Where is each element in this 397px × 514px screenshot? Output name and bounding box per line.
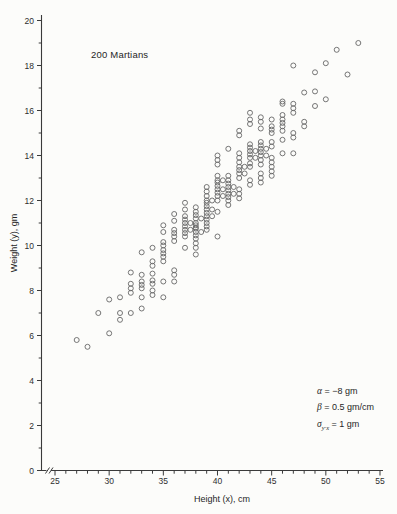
y-tick-label: 12 <box>25 196 35 206</box>
y-tick-label: 16 <box>25 106 35 116</box>
data-point <box>210 198 215 203</box>
beta-annotation: β = 0.5 gm/cm <box>317 401 374 417</box>
data-point <box>74 338 79 343</box>
data-point <box>139 306 144 311</box>
data-point <box>139 295 144 300</box>
y-tick-label: 10 <box>25 241 35 251</box>
data-point <box>172 212 177 217</box>
regression-annotations: α = −8 gm β = 0.5 gm/cm σy·x = 1 gm <box>317 385 374 434</box>
data-point <box>258 140 263 145</box>
data-point <box>139 279 144 284</box>
y-axis-title: Weight (y), gm <box>9 198 19 288</box>
data-point <box>210 207 215 212</box>
scatter-plot: 2530354045505502468101214161820 <box>0 0 397 514</box>
data-point <box>248 110 253 115</box>
data-point <box>183 245 188 250</box>
x-tick-label: 30 <box>104 476 114 486</box>
x-tick-label: 25 <box>50 476 60 486</box>
data-point <box>161 279 166 284</box>
data-point <box>150 245 155 250</box>
data-point <box>150 278 155 283</box>
data-point <box>96 311 101 316</box>
sigma-annotation: σy·x = 1 gm <box>317 418 374 434</box>
data-point <box>334 47 339 52</box>
data-point <box>264 153 269 158</box>
y-tick-label: 18 <box>25 61 35 71</box>
x-tick-label: 45 <box>267 476 277 486</box>
data-point <box>183 207 188 212</box>
data-point <box>139 250 144 255</box>
y-tick-label: 0 <box>29 466 34 476</box>
data-point <box>183 200 188 205</box>
data-point <box>313 104 318 109</box>
y-tick-label: 8 <box>29 286 34 296</box>
data-point <box>313 89 318 94</box>
data-point <box>172 218 177 223</box>
data-point <box>107 297 112 302</box>
data-point <box>118 295 123 300</box>
data-point <box>220 187 225 192</box>
data-point <box>118 311 123 316</box>
data-point <box>193 252 198 257</box>
data-point <box>161 240 166 245</box>
beta-value: = 0.5 gm/cm <box>322 402 374 412</box>
data-point <box>128 311 133 316</box>
data-point <box>269 117 274 122</box>
data-point <box>161 295 166 300</box>
data-point <box>242 171 247 176</box>
alpha-value: = −8 gm <box>322 386 358 396</box>
data-point <box>172 227 177 232</box>
y-tick-label: 6 <box>29 331 34 341</box>
data-point <box>323 97 328 102</box>
x-axis-title: Height (x), cm <box>162 494 282 504</box>
x-tick-label: 40 <box>213 476 223 486</box>
y-tick-label: 14 <box>25 151 35 161</box>
y-tick-label: 4 <box>29 376 34 386</box>
data-point <box>269 124 274 129</box>
data-point <box>85 344 90 349</box>
data-point <box>118 317 123 322</box>
data-point <box>302 90 307 95</box>
data-point <box>161 230 166 235</box>
x-tick-label: 55 <box>375 476 385 486</box>
data-point <box>231 191 236 196</box>
y-tick-label: 20 <box>25 16 35 26</box>
data-point <box>253 149 258 154</box>
data-point <box>128 270 133 275</box>
data-point <box>183 214 188 219</box>
data-point <box>248 161 253 166</box>
data-point <box>242 164 247 169</box>
data-point <box>215 234 220 239</box>
data-point <box>258 126 263 131</box>
data-point <box>150 271 155 276</box>
sigma-value: = 1 gm <box>329 419 359 429</box>
data-point <box>313 70 318 75</box>
alpha-annotation: α = −8 gm <box>317 385 374 401</box>
data-point <box>226 146 231 151</box>
x-tick-label: 50 <box>321 476 331 486</box>
data-point <box>139 272 144 277</box>
data-point <box>188 227 193 232</box>
chart-title: 200 Martians <box>91 49 148 60</box>
sigma-subscript: y·x <box>322 423 329 430</box>
data-point <box>291 151 296 156</box>
x-tick-label: 35 <box>159 476 169 486</box>
data-point <box>280 151 285 156</box>
data-point <box>107 331 112 336</box>
data-point <box>161 223 166 228</box>
data-point <box>188 221 193 226</box>
data-point <box>280 137 285 142</box>
data-point <box>356 41 361 46</box>
data-point <box>248 142 253 147</box>
data-point <box>291 63 296 68</box>
data-point <box>172 279 177 284</box>
data-point <box>220 178 225 183</box>
data-point <box>210 214 215 219</box>
data-point <box>264 146 269 151</box>
y-tick-label: 2 <box>29 421 34 431</box>
data-point <box>323 61 328 66</box>
data-point <box>199 216 204 221</box>
data-point <box>345 72 350 77</box>
data-point <box>231 185 236 190</box>
data-point <box>215 209 220 214</box>
